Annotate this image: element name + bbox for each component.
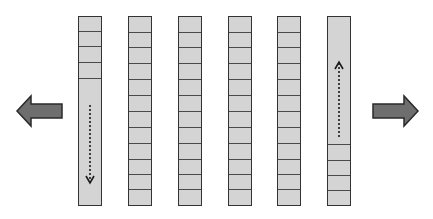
cell (328, 160, 350, 161)
cell (179, 127, 201, 128)
cell (79, 31, 101, 32)
column-6 (327, 16, 351, 206)
cell (129, 63, 151, 64)
cell (278, 111, 300, 112)
cell (229, 111, 251, 112)
cell (229, 47, 251, 48)
cell (328, 175, 350, 176)
cell (129, 127, 151, 128)
cell (229, 79, 251, 80)
cell (129, 95, 151, 96)
cell (229, 63, 251, 64)
cell (179, 79, 201, 80)
cell (278, 63, 300, 64)
cell (179, 95, 201, 96)
cell (328, 190, 350, 191)
cell (129, 79, 151, 80)
cell (179, 174, 201, 175)
cell (278, 47, 300, 48)
cell (179, 189, 201, 190)
cell (179, 159, 201, 160)
cell (179, 47, 201, 48)
cell (179, 32, 201, 33)
cell (79, 78, 101, 79)
column-3 (178, 16, 202, 206)
cell (278, 174, 300, 175)
column-4 (228, 16, 252, 206)
cell (79, 46, 101, 47)
cell (278, 127, 300, 128)
column-1 (78, 16, 102, 206)
cell (229, 127, 251, 128)
column-2 (128, 16, 152, 206)
cell (179, 143, 201, 144)
cell (129, 159, 151, 160)
dotted-up-arrow-icon (333, 57, 345, 141)
cell (278, 79, 300, 80)
left-arrow-icon (15, 93, 65, 129)
cell (79, 62, 101, 63)
cell (129, 143, 151, 144)
cell (328, 144, 350, 145)
cell (229, 189, 251, 190)
cell (278, 189, 300, 190)
cell (229, 159, 251, 160)
cell (278, 95, 300, 96)
cell (229, 95, 251, 96)
cell (229, 143, 251, 144)
cell (179, 111, 201, 112)
dotted-down-arrow-icon (84, 105, 96, 189)
cell (278, 143, 300, 144)
cell (129, 189, 151, 190)
cell (278, 32, 300, 33)
right-arrow-icon (370, 93, 420, 129)
cell (278, 159, 300, 160)
cell (229, 32, 251, 33)
cell (129, 47, 151, 48)
cell (129, 32, 151, 33)
cell (179, 63, 201, 64)
cell (129, 111, 151, 112)
column-5 (277, 16, 301, 206)
cell (129, 174, 151, 175)
cell (229, 174, 251, 175)
